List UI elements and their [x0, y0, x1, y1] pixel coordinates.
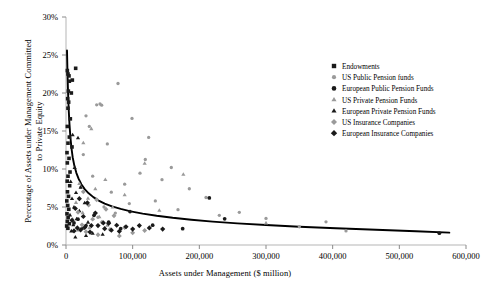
data-point [157, 208, 161, 212]
data-point [223, 217, 227, 221]
data-point [332, 86, 337, 91]
data-point [66, 161, 70, 165]
data-point [130, 117, 133, 120]
data-point [298, 225, 301, 228]
data-point [331, 97, 336, 101]
data-point [110, 191, 113, 194]
data-point [117, 233, 122, 238]
data-point [137, 223, 142, 228]
data-point [218, 214, 221, 217]
data-point [154, 199, 157, 202]
data-point [71, 133, 75, 137]
data-point [331, 108, 336, 112]
data-point [67, 207, 71, 211]
x-tick-label: 500,000 [386, 251, 414, 261]
data-point [71, 78, 75, 82]
data-point [84, 229, 89, 234]
data-point [65, 179, 69, 183]
data-point [67, 157, 71, 161]
data-point [264, 221, 268, 225]
data-point [207, 196, 211, 200]
data-point [151, 223, 155, 227]
data-point [93, 187, 97, 191]
data-point [74, 67, 78, 71]
legend-item-5[interactable]: US Insurance Companies [331, 119, 415, 127]
y-tick-label: 5% [47, 202, 58, 212]
data-point [142, 228, 147, 233]
x-tick-label: 400,000 [319, 251, 347, 261]
data-point [332, 64, 336, 68]
data-point [66, 174, 70, 178]
data-point [96, 232, 101, 237]
data-point [128, 202, 131, 205]
data-point [86, 220, 90, 224]
data-point [74, 200, 78, 204]
legend-item-0[interactable]: Endowments [332, 63, 380, 71]
data-point [264, 217, 267, 220]
data-point [82, 153, 85, 156]
data-point [123, 183, 126, 186]
data-point [100, 104, 103, 107]
data-point [123, 193, 127, 197]
data-point [65, 199, 69, 203]
data-point [103, 178, 107, 182]
legend-label: European Insurance Companies [342, 130, 434, 138]
data-point [128, 210, 132, 214]
data-point [95, 223, 100, 228]
data-point [66, 226, 70, 230]
legend-item-6[interactable]: European Insurance Companies [331, 130, 434, 138]
x-tick-label: 100,000 [119, 251, 147, 261]
data-point [68, 135, 72, 139]
data-point [73, 165, 77, 169]
data-point [331, 119, 337, 125]
data-point [65, 212, 69, 216]
legend-label: US Private Pension Funds [342, 97, 417, 105]
data-point [70, 91, 74, 95]
data-point [101, 232, 105, 236]
data-point [91, 175, 94, 178]
data-point [65, 151, 69, 155]
data-point [69, 179, 73, 183]
legend-item-2[interactable]: European Public Pension Funds [332, 85, 434, 93]
y-tick-label: 0% [47, 240, 58, 250]
data-point [181, 227, 185, 231]
data-point [143, 161, 147, 165]
data-point [86, 196, 90, 200]
data-point [66, 69, 70, 73]
data-point [77, 196, 82, 201]
data-point [437, 231, 441, 235]
data-point [76, 136, 80, 140]
data-point [344, 229, 347, 232]
x-axis-title: Assets under Management ($ million) [60, 268, 390, 279]
y-axis-title: Percentage of Assets under Management Co… [23, 36, 45, 226]
legend-label: US Insurance Companies [342, 119, 415, 127]
legend-item-3[interactable]: US Private Pension Funds [331, 97, 417, 105]
scatter-plot: 0100,000200,000300,000400,000500,000600,… [0, 0, 490, 289]
legend-item-4[interactable]: European Private Pension Funds [331, 108, 435, 116]
data-point [116, 82, 119, 85]
data-point [130, 226, 135, 231]
data-point [68, 184, 72, 188]
data-point [144, 158, 147, 161]
data-point [95, 103, 98, 106]
data-point [160, 178, 163, 181]
data-point [67, 100, 71, 104]
data-point [238, 211, 241, 214]
data-point [66, 125, 70, 129]
x-tick-label: 0 [64, 251, 68, 261]
data-point [84, 114, 87, 117]
data-point [324, 220, 327, 223]
data-point [66, 190, 70, 194]
data-point [160, 226, 165, 231]
series-1 [79, 82, 348, 233]
data-point [70, 145, 74, 149]
data-point [331, 130, 337, 136]
data-point [74, 190, 78, 194]
data-point [102, 226, 107, 231]
legend-item-1[interactable]: US Public Pension funds [332, 74, 414, 82]
legend-label: US Public Pension funds [342, 74, 414, 82]
y-tick-label: 30% [42, 12, 58, 22]
data-point [138, 172, 141, 175]
data-point [73, 235, 77, 239]
data-point [181, 172, 185, 176]
